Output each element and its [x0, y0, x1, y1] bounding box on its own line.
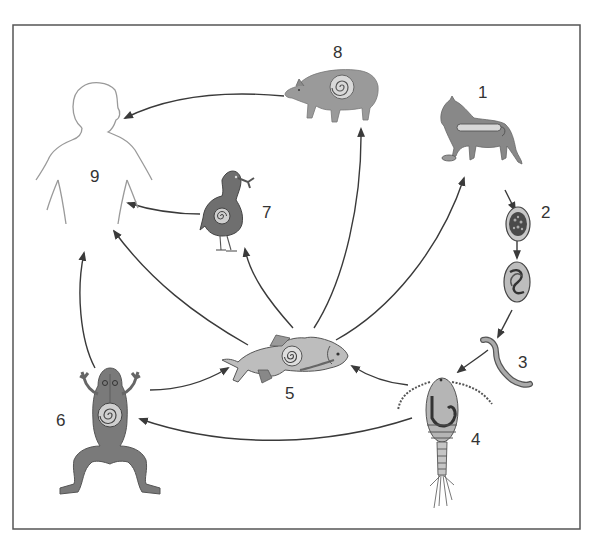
arrow-fish-to-human: [114, 231, 248, 345]
frog-figure: [60, 368, 160, 494]
arrow-bird-to-human: [128, 203, 200, 214]
arrow-copepod-to-frog: [140, 418, 412, 440]
node-label-6: 6: [56, 411, 65, 430]
arrow-egg-to-larva: [498, 310, 512, 337]
node-label-7: 7: [262, 203, 271, 222]
arrow-cat-to-egg: [505, 190, 515, 210]
arrow-frog-to-fish: [150, 368, 228, 390]
bird-figure: [200, 171, 254, 251]
egg-figure: [506, 207, 530, 241]
node-label-8: 8: [333, 43, 342, 62]
arrow-frog-to-human: [80, 253, 95, 368]
embryonated-egg-figure: [504, 262, 530, 302]
node-label-5: 5: [285, 384, 294, 403]
node-label-4: 4: [471, 430, 480, 449]
arrow-copepod-to-fish: [352, 366, 408, 385]
pig-figure: [285, 70, 378, 122]
node-label-2: 2: [541, 203, 550, 222]
arrow-fish-to-cat: [336, 178, 464, 340]
arrow-larva-to-copepod: [458, 350, 488, 372]
arrow-fish-to-bird: [245, 249, 293, 328]
life-cycle-diagram: 9 8 1 2 3: [0, 0, 596, 552]
node-label-1: 1: [478, 83, 487, 102]
arrow-pig-to-human: [125, 94, 284, 118]
fish-figure: [222, 335, 348, 383]
arrow-fish-to-pig: [314, 129, 361, 328]
node-label-9: 9: [90, 167, 99, 186]
cat-figure: [441, 96, 522, 164]
node-label-3: 3: [518, 353, 527, 372]
human-figure: [36, 83, 152, 224]
